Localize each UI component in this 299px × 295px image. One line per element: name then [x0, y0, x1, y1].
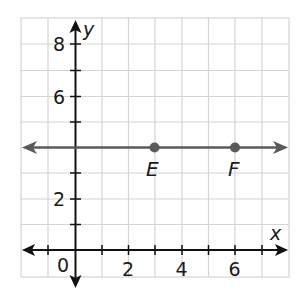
y-tick-label-2: 2	[53, 188, 65, 210]
coordinate-plane: 2 4 6 0 x 8 6 2 y E F	[0, 0, 299, 295]
y-axis-label: y	[82, 18, 95, 40]
x-axis-label: x	[269, 222, 282, 244]
point-f-label: F	[228, 157, 240, 181]
y-tick-label-8: 8	[53, 33, 65, 55]
point-e-label: E	[146, 157, 159, 181]
y-axis: 8 6 2 y	[53, 18, 95, 288]
x-tick-label-4: 4	[176, 258, 188, 280]
y-tick-label-6: 6	[53, 86, 65, 108]
origin-label: 0	[57, 254, 69, 276]
x-tick-label-2: 2	[122, 258, 134, 280]
x-tick-label-6: 6	[229, 258, 241, 280]
